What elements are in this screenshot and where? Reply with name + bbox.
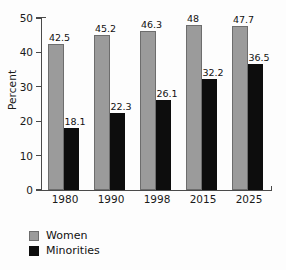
bar-value-label: 32.2 (203, 68, 224, 78)
women-swatch (29, 231, 39, 241)
bar-value-label: 36.5 (249, 53, 270, 63)
x-axis-tick-label: 1980 (42, 194, 88, 205)
bar-chart: Percent 01020304050 42.518.145.222.346.3… (0, 0, 286, 270)
x-axis-tick-label: 1998 (134, 194, 180, 205)
bar-value-label: 46.3 (141, 20, 162, 30)
bar-women-2025 (232, 26, 248, 190)
bar-women-1998 (140, 31, 156, 190)
bar-minorities-2025 (248, 64, 264, 190)
bar-women-1990 (94, 35, 110, 190)
bar-value-label: 48 (187, 14, 199, 24)
bar-value-label: 22.3 (111, 102, 132, 112)
y-axis-tick-label: 0 (3, 185, 33, 196)
y-axis-tick-label: 30 (3, 82, 33, 93)
bar-minorities-2015 (202, 79, 218, 190)
x-axis-tick-label: 2025 (226, 194, 272, 205)
bar-value-label: 42.5 (49, 33, 70, 43)
x-axis-tick-label: 1990 (88, 194, 134, 205)
plot-area: 42.518.145.222.346.326.14832.247.736.5 (42, 18, 272, 190)
bar-minorities-1980 (64, 128, 80, 190)
y-axis-tick-label: 20 (3, 116, 33, 127)
bar-minorities-1998 (156, 100, 172, 190)
bar-value-label: 45.2 (95, 24, 116, 34)
legend-item-minorities: Minorities (29, 243, 100, 258)
bar-women-2015 (186, 25, 202, 190)
legend-item-label: Women (46, 230, 87, 241)
bar-value-label: 26.1 (157, 89, 178, 99)
legend-item-label: Minorities (46, 245, 100, 256)
x-axis-tick-label: 2015 (180, 194, 226, 205)
bar-women-1980 (48, 44, 64, 190)
bar-minorities-1990 (110, 113, 126, 190)
minorities-swatch (29, 246, 39, 256)
y-axis-tick-label: 50 (3, 13, 33, 24)
y-axis-tick-label: 40 (3, 47, 33, 58)
bar-value-label: 18.1 (65, 117, 86, 127)
legend-item-women: Women (29, 228, 100, 243)
bar-value-label: 47.7 (233, 15, 254, 25)
chart-legend: WomenMinorities (29, 228, 100, 258)
y-axis-tick-label: 10 (3, 150, 33, 161)
